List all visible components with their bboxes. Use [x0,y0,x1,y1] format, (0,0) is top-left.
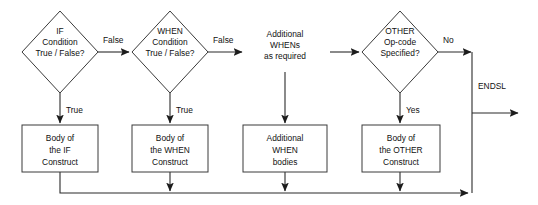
decision-if-condition-line-2: Condition [42,37,78,47]
process-additional-when-bodies-line-2: WHEN [272,145,298,155]
edge-label-if-true: True [66,105,83,115]
decision-other-opcode-line-1: OTHER [385,26,414,36]
process-additional-when-bodies-line-3: bodies [273,157,298,167]
annotation-additional-whens: Additional WHENs as required [264,29,306,61]
annotation-additional-whens-line-3: as required [264,51,306,61]
process-if-body-line-2: the IF [49,145,70,155]
decision-if-condition[interactable]: IF Condition True / False? [22,11,98,93]
process-if-body[interactable]: Body of the IF Construct [22,125,98,172]
flowchart-svg: IF Condition True / False? WHEN Conditio… [0,0,538,205]
edge-label-when-true: True [176,105,193,115]
decision-if-condition-line-1: IF [56,26,63,36]
decision-when-condition-line-3: True / False? [145,48,194,58]
edge-label-when-false: False [213,35,234,45]
decision-other-opcode-line-3: Specified? [380,48,419,58]
edge-label-other-yes: Yes [406,105,420,115]
process-if-body-line-3: Construct [42,157,79,167]
decision-if-condition-line-3: True / False? [35,48,84,58]
process-when-body-line-3: Construct [152,157,189,167]
flowchart-canvas: IF Condition True / False? WHEN Conditio… [0,0,538,205]
process-when-body[interactable]: Body of the WHEN Construct [132,125,208,172]
decision-other-opcode-line-2: Op-code [384,37,416,47]
edge-if-body-to-merge [60,172,468,193]
process-when-body-line-1: Body of [156,133,185,143]
decision-when-condition-line-1: WHEN [157,26,183,36]
process-other-body[interactable]: Body of the OTHER Construct [362,125,440,172]
decision-other-opcode[interactable]: OTHER Op-code Specified? [362,11,438,93]
process-when-body-line-2: the WHEN [150,145,190,155]
process-other-body-line-3: Construct [383,157,420,167]
annotation-additional-whens-line-1: Additional [267,29,304,39]
edge-label-if-false: False [103,35,124,45]
process-other-body-line-2: the OTHER [379,145,422,155]
process-additional-when-bodies-line-1: Additional [267,133,304,143]
edge-label-endsl: ENDSL [478,81,506,91]
edge-label-other-no: No [443,35,454,45]
decision-when-condition[interactable]: WHEN Condition True / False? [132,11,208,93]
annotation-additional-whens-line-2: WHENs [270,40,300,50]
process-additional-when-bodies[interactable]: Additional WHEN bodies [243,125,327,172]
process-if-body-line-1: Body of [46,133,75,143]
process-other-body-line-1: Body of [387,133,416,143]
decision-when-condition-line-2: Condition [152,37,188,47]
